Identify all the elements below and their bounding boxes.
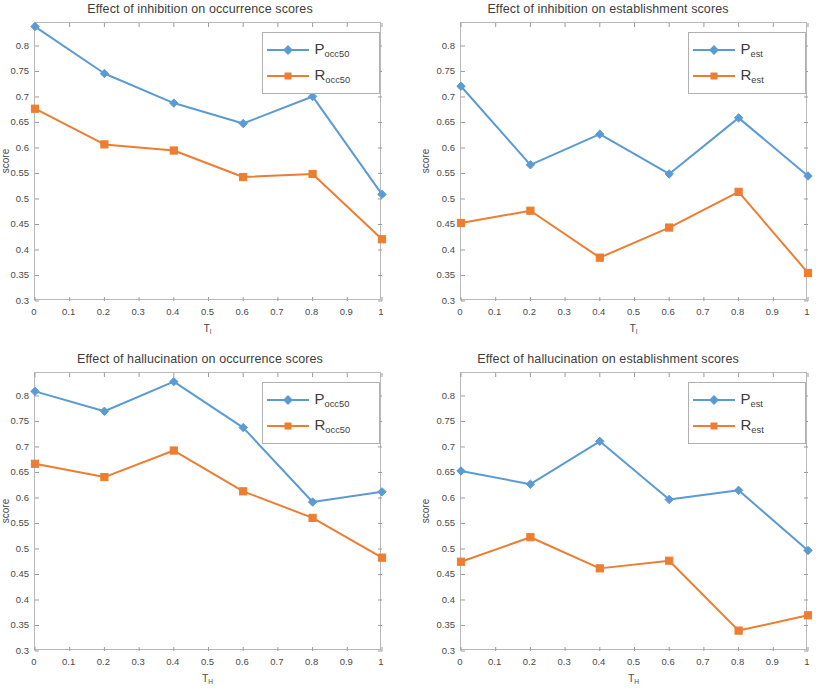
y-tick-label: 0.7 bbox=[420, 440, 455, 451]
x-tick-label: 0.8 bbox=[305, 306, 318, 317]
x-tick-label: 0.6 bbox=[662, 306, 675, 317]
y-axis-label: score bbox=[0, 149, 11, 173]
y-tick-label: 0.65 bbox=[0, 466, 29, 477]
data-point-R_est bbox=[527, 207, 534, 214]
legend-line-sample bbox=[267, 394, 309, 406]
legend-item-p-est[interactable]: Pest bbox=[693, 387, 798, 413]
data-point-R_est bbox=[596, 565, 603, 572]
data-point-R_occ50 bbox=[170, 447, 177, 454]
y-tick-label: 0.4 bbox=[0, 243, 29, 254]
x-tick-label: 0.4 bbox=[592, 656, 605, 667]
legend-label-subscript: occ50 bbox=[325, 49, 350, 59]
x-tick-label: 0.1 bbox=[488, 656, 501, 667]
y-tick-label: 0.35 bbox=[420, 269, 455, 280]
legend-label: Rest bbox=[740, 417, 763, 435]
y-axis-label: score bbox=[0, 499, 11, 523]
data-point-P_est bbox=[596, 130, 604, 138]
legend-item-p-occ50[interactable]: Pocc50 bbox=[267, 387, 372, 413]
legend-label-subscript: est bbox=[751, 75, 763, 85]
y-tick-label: 0.3 bbox=[0, 645, 29, 656]
x-axis-label-subscript: I bbox=[636, 328, 638, 335]
legend: PestRest bbox=[688, 382, 806, 444]
x-tick-label: 0 bbox=[457, 306, 462, 317]
x-tick-label: 0.5 bbox=[627, 656, 640, 667]
x-axis-label: TI bbox=[203, 322, 211, 335]
x-tick-label: 0 bbox=[31, 656, 36, 667]
x-tick-label: 1 bbox=[378, 656, 383, 667]
y-tick-label: 0.75 bbox=[0, 415, 29, 426]
panel-title: Effect of inhibition on occurrence score… bbox=[0, 2, 400, 16]
x-tick-label: 1 bbox=[378, 306, 383, 317]
x-tick-label: 0.7 bbox=[696, 306, 709, 317]
legend-item-r-occ50[interactable]: Rocc50 bbox=[267, 63, 372, 89]
y-tick-label: 0.45 bbox=[420, 568, 455, 579]
legend-item-p-est[interactable]: Pest bbox=[693, 37, 798, 63]
data-point-R_occ50 bbox=[240, 488, 247, 495]
data-point-R_est bbox=[666, 557, 673, 564]
y-tick-label: 0.35 bbox=[0, 619, 29, 630]
data-point-R_occ50 bbox=[101, 473, 108, 480]
x-tick-label: 0.6 bbox=[236, 656, 249, 667]
x-tick-label: 0.3 bbox=[557, 656, 570, 667]
y-tick-label: 0.7 bbox=[0, 90, 29, 101]
data-point-R_occ50 bbox=[240, 173, 247, 180]
legend-label: Rest bbox=[740, 67, 763, 85]
x-tick-label: 0.9 bbox=[766, 656, 779, 667]
x-axis-label: TH bbox=[628, 672, 639, 685]
legend-label: Pocc50 bbox=[314, 391, 349, 409]
data-point-R_est bbox=[804, 269, 811, 276]
x-tick-label: 0.1 bbox=[62, 306, 75, 317]
legend-item-p-occ50[interactable]: Pocc50 bbox=[267, 37, 372, 63]
series-line-P_est bbox=[461, 441, 808, 550]
y-tick-label: 0.4 bbox=[420, 593, 455, 604]
legend-label-symbol: P bbox=[314, 40, 324, 57]
data-point-R_est bbox=[457, 219, 464, 226]
y-tick-label: 0.35 bbox=[0, 269, 29, 280]
legend-label-subscript: occ50 bbox=[325, 425, 350, 435]
y-tick-label: 0.5 bbox=[0, 542, 29, 553]
legend-item-r-occ50[interactable]: Rocc50 bbox=[267, 413, 372, 439]
y-tick-label: 0.75 bbox=[0, 65, 29, 76]
legend-item-r-est[interactable]: Rest bbox=[693, 63, 798, 89]
legend-marker-square bbox=[711, 73, 718, 80]
x-tick-label: 0.2 bbox=[97, 656, 110, 667]
panel-top-right: Effect of inhibition on establishment sc… bbox=[420, 0, 816, 350]
legend-label: Rocc50 bbox=[314, 67, 350, 85]
legend-marker-square bbox=[711, 423, 718, 430]
legend: Pocc50Rocc50 bbox=[262, 382, 380, 444]
data-point-P_occ50 bbox=[31, 387, 39, 395]
panel-bottom-right: Effect of hallucination on establishment… bbox=[420, 350, 816, 694]
legend-label-symbol: R bbox=[314, 416, 325, 433]
legend: PestRest bbox=[688, 32, 806, 94]
x-tick-label: 0.6 bbox=[662, 656, 675, 667]
legend-item-r-est[interactable]: Rest bbox=[693, 413, 798, 439]
legend-label-symbol: P bbox=[740, 40, 750, 57]
y-tick-label: 0.4 bbox=[0, 593, 29, 604]
data-point-R_occ50 bbox=[309, 170, 316, 177]
legend-label: Pest bbox=[740, 41, 762, 59]
panel-title: Effect of inhibition on establishment sc… bbox=[420, 2, 796, 16]
x-tick-label: 0 bbox=[457, 656, 462, 667]
legend-label-subscript: occ50 bbox=[325, 75, 350, 85]
panel-title: Effect of hallucination on establishment… bbox=[420, 352, 796, 366]
y-tick-label: 0.45 bbox=[420, 218, 455, 229]
x-tick-label: 0.7 bbox=[696, 656, 709, 667]
y-tick-label: 0.65 bbox=[420, 116, 455, 127]
x-tick-label: 0.8 bbox=[731, 656, 744, 667]
data-point-R_est bbox=[457, 558, 464, 565]
y-axis-label: score bbox=[420, 499, 431, 523]
x-tick-label: 0.4 bbox=[592, 306, 605, 317]
legend-label-symbol: P bbox=[314, 390, 324, 407]
legend-marker-diamond bbox=[284, 45, 294, 55]
data-point-R_occ50 bbox=[101, 141, 108, 148]
x-tick-label: 0.5 bbox=[201, 306, 214, 317]
legend-line-sample bbox=[693, 420, 735, 432]
legend-label-symbol: R bbox=[314, 66, 325, 83]
data-point-R_occ50 bbox=[170, 147, 177, 154]
x-tick-label: 0.5 bbox=[201, 656, 214, 667]
x-tick-label: 0 bbox=[31, 306, 36, 317]
x-axis-label: TI bbox=[629, 322, 637, 335]
data-point-R_est bbox=[735, 188, 742, 195]
x-tick-label: 0.7 bbox=[270, 306, 283, 317]
